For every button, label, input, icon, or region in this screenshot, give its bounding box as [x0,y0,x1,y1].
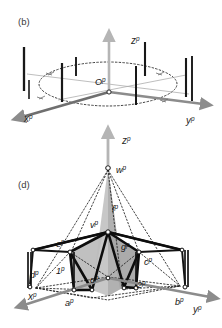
node-base-right [122,286,126,290]
node-d-corner [31,248,35,252]
node-c-corner [180,248,184,252]
node-w [106,166,111,171]
node-d [28,285,32,289]
node-e [68,250,72,254]
figure-root: (b) zp yp [0,0,222,328]
node-origin-d [106,276,110,280]
panel-b-origin-marker [107,90,111,94]
node-v [106,230,110,234]
node-g [137,250,141,254]
panel-b-tag: (b) [18,16,30,27]
node-b [183,285,187,289]
node-a [72,288,76,292]
node-base-left [90,288,94,292]
figure-canvas: (b) zp yp [0,0,222,328]
panel-d-tag: (d) [18,179,30,190]
